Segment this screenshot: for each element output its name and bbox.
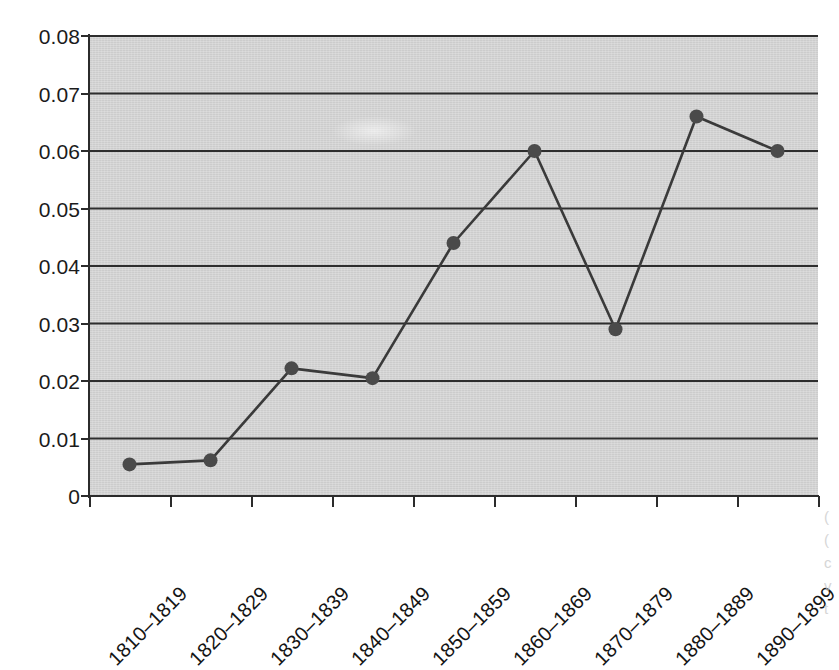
page-bleed-line: t: [824, 597, 839, 620]
line-chart-svg: [89, 36, 818, 496]
x-tick-mark: [251, 496, 253, 507]
data-point-1880–1889: [690, 110, 704, 124]
x-axis-line: [88, 495, 819, 497]
y-tick-label: 0.01: [8, 428, 80, 449]
data-point-1850–1859: [447, 236, 461, 250]
x-tick-label-1820–1829: 1820–1829: [184, 582, 272, 670]
x-tick-mark: [332, 496, 334, 507]
data-point-1820–1829: [204, 453, 218, 467]
x-tick-mark: [89, 496, 91, 507]
x-tick-label-1840–1849: 1840–1849: [346, 582, 434, 670]
x-tick-mark: [737, 496, 739, 507]
x-tick-label-1860–1869: 1860–1869: [508, 582, 596, 670]
y-tick-mark: [81, 35, 90, 37]
x-tick-label-1880–1889: 1880–1889: [670, 582, 758, 670]
y-tick-label: 0.03: [8, 313, 80, 334]
y-tick-mark: [81, 380, 90, 382]
x-tick-label-1870–1879: 1870–1879: [589, 582, 677, 670]
y-tick-label: 0.07: [8, 83, 80, 104]
data-point-1830–1839: [285, 361, 299, 375]
x-tick-label-1850–1859: 1850–1859: [427, 582, 515, 670]
y-tick-label: 0.05: [8, 198, 80, 219]
page-bleed-line: c: [824, 551, 839, 574]
x-tick-mark: [494, 496, 496, 507]
x-tick-mark: [818, 496, 820, 507]
y-tick-label: 0.06: [8, 141, 80, 162]
page-bleed-line: v: [824, 574, 839, 597]
plot-area: [89, 36, 818, 496]
x-tick-mark: [575, 496, 577, 507]
data-series-line: [130, 117, 778, 465]
y-tick-mark: [81, 495, 90, 497]
page-bleed-line: (: [824, 505, 839, 528]
y-tick-mark: [81, 208, 90, 210]
x-tick-label-1810–1819: 1810–1819: [103, 582, 191, 670]
page-bleed-text: ((cvt: [824, 505, 839, 635]
y-tick-mark: [81, 150, 90, 152]
y-axis-ticks: 00.010.020.030.040.050.060.070.08: [0, 0, 80, 635]
data-point-1840–1849: [366, 371, 380, 385]
y-tick-label: 0: [8, 486, 80, 507]
page-bleed-line: (: [824, 528, 839, 551]
y-tick-mark: [81, 438, 90, 440]
data-point-1870–1879: [609, 322, 623, 336]
x-tick-label-1830–1839: 1830–1839: [265, 582, 353, 670]
y-tick-mark: [81, 93, 90, 95]
y-tick-label: 0.08: [8, 26, 80, 47]
data-point-1890–1899: [771, 144, 785, 158]
x-tick-mark: [656, 496, 658, 507]
data-point-markers: [123, 110, 785, 472]
y-tick-label: 0.04: [8, 256, 80, 277]
data-point-1810–1819: [123, 457, 137, 471]
x-tick-mark: [413, 496, 415, 507]
y-tick-mark: [81, 323, 90, 325]
data-point-1860–1869: [528, 144, 542, 158]
y-tick-label: 0.02: [8, 371, 80, 392]
y-tick-mark: [81, 265, 90, 267]
x-tick-mark: [170, 496, 172, 507]
